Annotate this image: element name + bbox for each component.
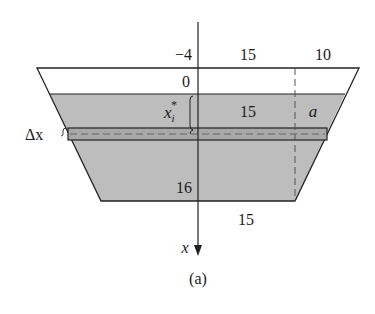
label-top-depth: −4 [175,46,192,63]
figure-caption: (a) [189,270,207,288]
trapezoid-tank-diagram: −4 15 10 0 xi* 15 a Δx 16 15 x (a) [0,0,375,314]
label-surface-depth: 0 [182,73,190,90]
label-x-axis: x [180,239,188,256]
label-strip-extra: a [309,102,318,121]
label-strip-thickness: Δx [25,126,43,143]
x-axis-arrowhead-icon [194,245,202,256]
thickness-brace [61,128,66,136]
label-mid-half-width: 15 [240,103,256,120]
label-top-extra-width: 10 [315,46,331,63]
label-bottom-depth: 16 [176,179,192,196]
label-bottom-half-width: 15 [238,211,254,228]
label-top-half-width: 15 [240,46,256,63]
